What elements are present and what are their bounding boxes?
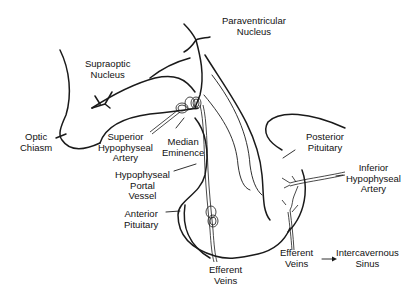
label-inferior-hypophyseal-artery: Inferior Hypophyseal Artery (346, 163, 401, 195)
label-supraoptic-nucleus: Supraoptic Nucleus (85, 59, 130, 80)
label-paraventricular-nucleus: Paraventricular Nucleus (222, 16, 286, 37)
inferior-hypophyseal-artery (290, 172, 345, 183)
label-efferent-veins-anterior: Efferent Veins (209, 265, 242, 286)
label-superior-hypophyseal-artery: Superior Hypophyseal Artery (98, 132, 153, 164)
label-median-eminence: Median Eminence (162, 137, 204, 158)
label-posterior-pituitary: Posterior Pituitary (306, 132, 344, 153)
label-intercavernous-sinus: Intercavernous Sinus (336, 248, 399, 269)
paraventricular-nucleus-cell (184, 24, 210, 52)
hypothalamic-pituitary-diagram: Paraventricular Nucleus Supraoptic Nucle… (0, 0, 419, 307)
label-anterior-pituitary: Anterior Pituitary (124, 209, 158, 230)
label-optic-chiasm: Optic Chiasm (20, 132, 52, 153)
label-efferent-veins-posterior: Efferent Veins (280, 248, 313, 269)
label-hypophyseal-portal-vessel: Hypophyseal Portal Vessel (115, 170, 170, 202)
